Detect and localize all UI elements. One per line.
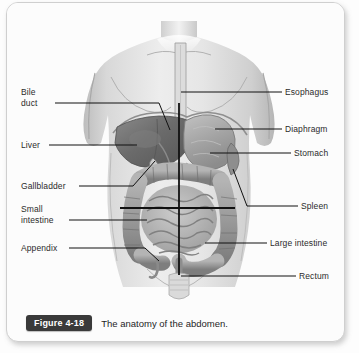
figure-caption-text: The anatomy of the abdomen. <box>101 318 228 329</box>
label-small-intestine: Small intestine <box>21 204 54 226</box>
label-esophagus: Esophagus <box>285 87 328 98</box>
label-liver: Liver <box>21 140 40 151</box>
pelvic-structure <box>169 273 189 299</box>
label-diaphragm: Diaphragm <box>285 124 327 135</box>
ascending-colon <box>131 181 139 255</box>
figure-card: Bile duct Liver Gallbladder Small intest… <box>6 2 345 342</box>
transverse-colon <box>141 171 219 179</box>
label-appendix: Appendix <box>21 243 57 254</box>
label-rectum: Rectum <box>299 271 329 282</box>
esophagus-organ <box>175 43 186 125</box>
figure-number-badge: Figure 4-18 <box>26 315 92 331</box>
sigmoid-colon <box>179 261 217 269</box>
label-bile-duct: Bile duct <box>21 87 37 109</box>
figure-caption-row: Figure 4-18 The anatomy of the abdomen. <box>7 311 344 335</box>
label-spleen: Spleen <box>301 201 328 212</box>
label-stomach: Stomach <box>294 148 328 159</box>
descending-colon <box>219 181 229 259</box>
label-gallbladder: Gallbladder <box>21 181 66 192</box>
label-large-intestine: Large intestine <box>270 238 327 249</box>
cecum <box>141 255 163 263</box>
